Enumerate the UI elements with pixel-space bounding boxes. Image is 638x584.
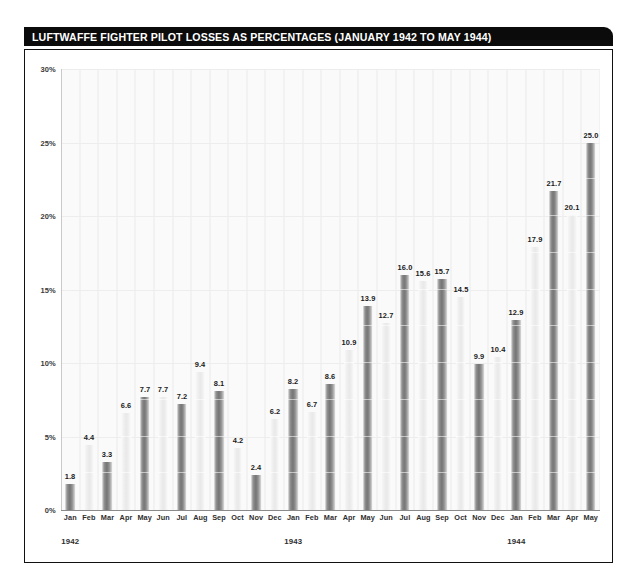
bar-column: 12.9 — [507, 69, 526, 510]
bar — [437, 279, 447, 510]
chart-title-bar: LUFTWAFFE FIGHTER PILOT LOSSES AS PERCEN… — [24, 27, 613, 46]
bar-column: 8.6 — [321, 69, 340, 510]
y-axis-tick-label: 0% — [45, 506, 56, 515]
bar-value-label: 13.9 — [360, 294, 375, 303]
bar-column: 25.0 — [581, 69, 600, 510]
bar-gridline-stripes — [419, 281, 429, 510]
x-axis-tick-label: Jun — [157, 513, 170, 522]
x-axis-tick-label: Jun — [380, 513, 393, 522]
bar-column: 14.5 — [451, 69, 470, 510]
bar-gridline-stripes — [512, 320, 522, 510]
bar-column: 2.4 — [247, 69, 266, 510]
bar-value-label: 8.6 — [325, 372, 336, 381]
bar-gridline-stripes — [326, 384, 336, 510]
bar-gridline-stripes — [363, 306, 373, 510]
x-axis-tick-label: Feb — [528, 513, 541, 522]
y-axis-tick-label: 25% — [40, 138, 56, 147]
bar-gridline-stripes — [233, 448, 243, 510]
y-axis-tick-label: 15% — [40, 285, 56, 294]
y-axis-tick-label: 5% — [45, 432, 56, 441]
chart-title: LUFTWAFFE FIGHTER PILOT LOSSES AS PERCEN… — [32, 31, 491, 43]
bar — [84, 445, 94, 510]
bar — [326, 384, 336, 510]
bar-column: 3.3 — [98, 69, 117, 510]
bar-gridline-stripes — [456, 297, 466, 510]
bar-column: 7.7 — [135, 69, 154, 510]
bar-value-label: 15.6 — [416, 269, 431, 278]
bar-column: 7.2 — [173, 69, 192, 510]
bar-value-label: 1.8 — [65, 472, 76, 481]
y-axis-labels: 0%5%10%15%20%25%30% — [25, 50, 56, 564]
bar-gridline-stripes — [549, 191, 559, 510]
bar — [233, 448, 243, 510]
x-axis-tick-label: Oct — [454, 513, 466, 522]
bar — [307, 412, 317, 510]
bar-value-label: 12.9 — [509, 308, 524, 317]
bar — [586, 143, 596, 511]
x-axis-tick-label: Jan — [64, 513, 77, 522]
plot-wrapper: 0%5%10%15%20%25%30% 1.84.43.36.67.77.77.… — [25, 50, 614, 564]
bar-column: 9.9 — [470, 69, 489, 510]
bar-column: 10.4 — [488, 69, 507, 510]
bar-gridline-stripes — [307, 412, 317, 510]
bar — [381, 323, 391, 510]
bar-gridline-stripes — [196, 372, 206, 510]
bar — [530, 247, 540, 510]
bar — [567, 215, 577, 510]
bar-gridline-stripes — [288, 389, 298, 510]
bar-value-label: 10.9 — [342, 338, 357, 347]
bar — [177, 404, 187, 510]
year-label: 1944 — [507, 537, 525, 546]
bar-value-label: 7.2 — [176, 392, 187, 401]
bar-column: 13.9 — [358, 69, 377, 510]
bar — [344, 350, 354, 510]
bar-gridline-stripes — [381, 323, 391, 510]
bar-value-label: 9.4 — [195, 360, 206, 369]
bar — [65, 484, 75, 510]
bar — [419, 281, 429, 510]
x-axis-tick-label: May — [360, 513, 375, 522]
bar — [363, 306, 373, 510]
bar — [121, 413, 131, 510]
bar-value-label: 16.0 — [397, 263, 412, 272]
bar — [493, 357, 503, 510]
bar-column: 15.6 — [414, 69, 433, 510]
bar-value-label: 2.4 — [251, 463, 262, 472]
x-axis-tick-label: Feb — [82, 513, 95, 522]
bar-value-label: 3.3 — [102, 450, 113, 459]
x-axis-tick-label: Jan — [287, 513, 300, 522]
bar-gridline-stripes — [493, 357, 503, 510]
bar-column: 4.2 — [228, 69, 247, 510]
bar-gridline-stripes — [344, 350, 354, 510]
bar — [512, 320, 522, 510]
x-axis-labels: JanFebMarAprMayJunJulAugSepOctNovDecJanF… — [61, 513, 600, 529]
bar — [270, 419, 280, 510]
bar-value-label: 6.6 — [121, 401, 132, 410]
bar-gridline-stripes — [177, 404, 187, 510]
bar-column: 20.1 — [563, 69, 582, 510]
bar-gridline-stripes — [474, 364, 484, 510]
bar-value-label: 6.2 — [269, 407, 280, 416]
x-axis-tick-label: Aug — [193, 513, 207, 522]
x-axis-tick-label: Apr — [120, 513, 133, 522]
bar-column: 4.4 — [80, 69, 99, 510]
chart-frame: 0%5%10%15%20%25%30% 1.84.43.36.67.77.77.… — [24, 49, 613, 563]
x-axis-tick-label: Sep — [435, 513, 449, 522]
bar-value-label: 9.9 — [474, 352, 485, 361]
bar-gridline-stripes — [586, 143, 596, 511]
bar-column: 6.7 — [303, 69, 322, 510]
bar-value-label: 7.7 — [158, 385, 169, 394]
bar-value-label: 15.7 — [435, 267, 450, 276]
bar-value-label: 8.2 — [288, 377, 299, 386]
year-group-labels: 194219431944 — [61, 537, 600, 553]
y-axis-line — [61, 69, 62, 510]
bar — [196, 372, 206, 510]
bar-value-label: 14.5 — [453, 285, 468, 294]
x-axis-tick-label: Jul — [399, 513, 410, 522]
bar — [251, 475, 261, 510]
bar-column: 7.7 — [154, 69, 173, 510]
year-label: 1943 — [284, 537, 302, 546]
bar-gridline-stripes — [65, 484, 75, 510]
bar — [103, 462, 113, 511]
y-axis-tick-label: 30% — [40, 65, 56, 74]
